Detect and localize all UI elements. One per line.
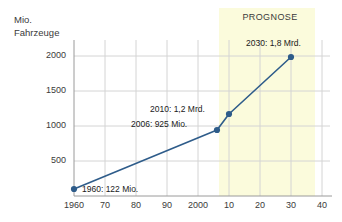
y-tick-label-1000: 1000 <box>14 120 66 130</box>
annotation-1960: 1960: 122 Mio. <box>82 184 138 194</box>
data-point-2030 <box>288 54 294 60</box>
annotation-2030: 2030: 1,8 Mrd. <box>246 38 301 48</box>
annotation-2006: 2006: 925 Mio. <box>131 119 187 129</box>
data-point-2006 <box>214 127 220 133</box>
vehicle-fleet-line-chart: PROGNOSE Mio. Fahrzeuge <box>0 0 342 222</box>
y-tick-label-500: 500 <box>14 155 66 165</box>
x-tick-label-2040: 40 <box>302 200 342 210</box>
y-tick-label-1500: 1500 <box>14 85 66 95</box>
data-point-2010 <box>226 111 232 117</box>
vertical-gridlines <box>105 40 322 196</box>
y-tick-label-2000: 2000 <box>14 50 66 60</box>
data-point-1960 <box>71 186 77 192</box>
annotation-2010: 2010: 1,2 Mrd. <box>150 104 205 114</box>
